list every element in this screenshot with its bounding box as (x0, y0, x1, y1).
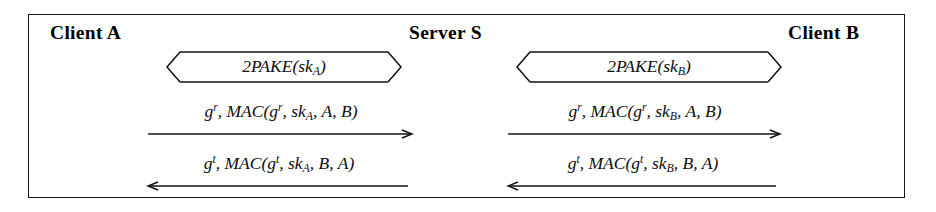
message-label-gr-mac-b: gr, MAC(gr, skB, A, B) (508, 101, 782, 124)
party-label-client-b: Client B (788, 22, 859, 44)
arrow-left-gt-mac-b (508, 182, 778, 194)
party-label-server-s: Server S (409, 22, 482, 44)
message-label-pake-b: 2PAKE(skB) (516, 56, 782, 79)
protocol-diagram: Client A Server S Client B 2PAKE(skA) 2P… (0, 0, 936, 212)
arrow-left-gt-mac-a (148, 182, 410, 194)
arrow-right-gr-mac-b (508, 130, 782, 142)
message-label-gt-mac-a: gt, MAC(gt, skA, B, A) (148, 153, 410, 176)
message-label-pake-a: 2PAKE(skA) (166, 56, 402, 79)
message-label-gr-mac-a: gr, MAC(gr, skA, A, B) (148, 101, 414, 124)
party-label-client-a: Client A (50, 22, 121, 44)
message-label-gt-mac-b: gt, MAC(gt, skB, B, A) (508, 153, 778, 176)
arrow-right-gr-mac-a (148, 130, 414, 142)
